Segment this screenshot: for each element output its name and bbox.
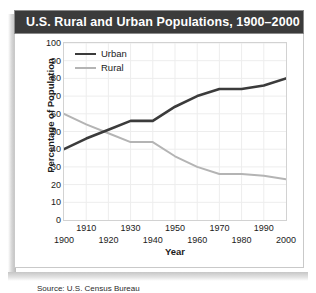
source-note: Source: U.S. Census Bureau xyxy=(37,284,140,293)
y-tick-label: 80 xyxy=(37,73,61,83)
card-shadow-bottom xyxy=(8,272,308,281)
x-tick-label: 1940 xyxy=(143,235,163,245)
x-axis-title: Year xyxy=(63,246,287,257)
legend-item-urban: Urban xyxy=(75,48,127,59)
x-tick-label: 1990 xyxy=(254,223,274,233)
y-tick-label: 100 xyxy=(37,38,61,48)
x-tick-label: 1980 xyxy=(232,235,252,245)
y-tick-label: 20 xyxy=(37,180,61,190)
y-tick-label: 70 xyxy=(37,91,61,101)
chart-title-bar: U.S. Rural and Urban Populations, 1900–2… xyxy=(14,10,304,34)
legend-line-icon-rural xyxy=(75,67,96,69)
legend-line-icon-urban xyxy=(75,53,96,55)
x-tick-label: 1950 xyxy=(165,223,185,233)
x-tick-label: 1900 xyxy=(54,235,74,245)
x-tick-label: 1960 xyxy=(187,235,207,245)
x-tick-label: 1930 xyxy=(121,223,141,233)
y-tick-label: 30 xyxy=(37,162,61,172)
x-tick-label: 1920 xyxy=(98,235,118,245)
x-tick-label: 2000 xyxy=(276,235,296,245)
legend-item-rural: Rural xyxy=(75,62,127,73)
x-tick-label: 1910 xyxy=(76,223,96,233)
y-tick-label: 0 xyxy=(37,215,61,225)
chart-panel: Percentage of Population 010203040506070… xyxy=(14,34,304,268)
chart-legend: Urban Rural xyxy=(75,48,127,73)
x-tick-label: 1970 xyxy=(209,223,229,233)
y-tick-label: 90 xyxy=(37,56,61,66)
legend-label-rural: Rural xyxy=(101,62,124,73)
y-tick-label: 60 xyxy=(37,109,61,119)
page-title: U.S. Rural and Urban Populations, 1900–2… xyxy=(15,15,300,29)
legend-label-urban: Urban xyxy=(101,48,127,59)
y-tick-label: 40 xyxy=(37,144,61,154)
y-tick-label: 50 xyxy=(37,127,61,137)
x-axis-ticks: 1900191019201930194019501960197019801990… xyxy=(63,222,287,248)
y-axis-ticks: 0102030405060708090100 xyxy=(35,42,61,221)
y-tick-label: 10 xyxy=(37,197,61,207)
